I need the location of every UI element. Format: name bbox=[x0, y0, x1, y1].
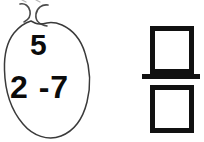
worksheet-canvas: 5 2 -7 bbox=[0, 0, 204, 142]
balloon-number-group: 5 2 -7 bbox=[0, 0, 100, 142]
fraction-answer-group bbox=[140, 26, 202, 127]
fraction-numerator-box[interactable] bbox=[150, 26, 194, 74]
balloon-top-number: 5 bbox=[30, 30, 47, 60]
fraction-bar bbox=[142, 74, 200, 79]
balloon-bottom-number: 2 -7 bbox=[10, 71, 69, 103]
fraction-denominator-box[interactable] bbox=[150, 85, 194, 133]
